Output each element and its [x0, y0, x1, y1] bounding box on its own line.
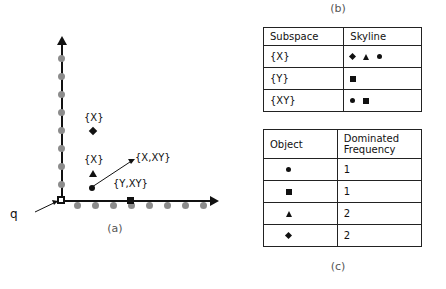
point-label-circle: {X,XY}	[135, 152, 171, 163]
panel-b-subspace-table: Subspace Skyline {X} {Y} {XY}	[263, 27, 422, 112]
table-row: 2	[264, 225, 422, 247]
square-icon	[363, 98, 369, 104]
x-axis-line	[61, 200, 214, 202]
y-axis-arrow-icon	[57, 36, 67, 45]
square-icon	[286, 189, 292, 195]
caption-c: (c)	[318, 260, 358, 273]
table-row: 1	[264, 159, 422, 181]
header-line-1: Dominated	[344, 133, 415, 144]
cell-subspace-x: {X}	[264, 46, 344, 68]
origin-query-marker	[57, 196, 65, 204]
x-axis-tick-dot	[92, 202, 99, 209]
cell-object-diamond	[264, 225, 338, 247]
header-subspace: Subspace	[264, 28, 344, 46]
panel-c-dominated-frequency-table: Object Dominated Frequency 1 1 2	[263, 129, 422, 247]
x-axis-tick-dot	[146, 202, 153, 209]
point-label-square: {Y,XY}	[113, 178, 148, 189]
point-label-triangle: {X}	[84, 154, 104, 165]
y-axis-tick-dot	[58, 73, 65, 80]
x-axis-tick-dot	[74, 202, 81, 209]
data-marker-square	[127, 197, 134, 204]
cell-skyline-x	[344, 46, 422, 68]
square-icon	[350, 76, 356, 82]
y-axis-tick-dot	[58, 127, 65, 134]
cell-skyline-y	[344, 68, 422, 90]
y-axis-line	[61, 44, 63, 202]
x-axis-tick-dot	[182, 202, 189, 209]
table-row: {X}	[264, 46, 422, 68]
table-header-row: Subspace Skyline	[264, 28, 422, 46]
point-label-diamond: {X}	[84, 112, 104, 123]
caption-b: (b)	[318, 2, 358, 15]
cell-frequency-circle: 1	[337, 159, 421, 181]
cell-frequency-triangle: 2	[337, 203, 421, 225]
y-axis-tick-dot	[58, 163, 65, 170]
table-row: 2	[264, 203, 422, 225]
circle-icon	[377, 54, 382, 59]
header-dominated-frequency: Dominated Frequency	[337, 130, 421, 159]
header-skyline: Skyline	[344, 28, 422, 46]
y-axis-tick-dot	[58, 145, 65, 152]
cell-object-triangle	[264, 203, 338, 225]
cell-object-circle	[264, 159, 338, 181]
panel-a-scatter-plot: {X} {X} {X,XY} {Y,XY} q (a)	[0, 0, 240, 289]
diamond-icon	[285, 232, 292, 239]
cell-frequency-diamond: 2	[337, 225, 421, 247]
header-line-2: Frequency	[344, 144, 415, 155]
plot-area: {X} {X} {X,XY} {Y,XY} q	[0, 0, 240, 240]
table-row: 1	[264, 181, 422, 203]
data-marker-diamond	[89, 127, 97, 135]
x-axis-tick-dot	[110, 202, 117, 209]
subspace-skyline-table: Subspace Skyline {X} {Y} {XY}	[263, 27, 422, 112]
triangle-icon	[363, 54, 369, 60]
cell-object-square	[264, 181, 338, 203]
y-axis-tick-dot	[58, 181, 65, 188]
cell-subspace-xy: {XY}	[264, 90, 344, 112]
y-axis-tick-dot	[58, 109, 65, 116]
circle-icon	[286, 167, 291, 172]
data-marker-circle	[89, 185, 95, 191]
data-marker-triangle	[89, 170, 97, 177]
table-header-row: Object Dominated Frequency	[264, 130, 422, 159]
caption-a: (a)	[80, 222, 150, 235]
query-point-label: q	[10, 207, 18, 221]
x-axis-tick-dot	[164, 202, 171, 209]
y-axis-tick-dot	[58, 91, 65, 98]
table-row: {Y}	[264, 68, 422, 90]
y-axis-tick-dot	[58, 55, 65, 62]
diamond-icon	[349, 53, 356, 60]
object-frequency-table: Object Dominated Frequency 1 1 2	[263, 129, 422, 247]
cell-skyline-xy	[344, 90, 422, 112]
cell-frequency-square: 1	[337, 181, 421, 203]
table-row: {XY}	[264, 90, 422, 112]
x-axis-tick-dot	[200, 202, 207, 209]
cell-subspace-y: {Y}	[264, 68, 344, 90]
x-axis-arrow-icon	[210, 196, 219, 206]
triangle-icon	[286, 211, 292, 217]
circle-icon	[350, 98, 355, 103]
header-object: Object	[264, 130, 338, 159]
